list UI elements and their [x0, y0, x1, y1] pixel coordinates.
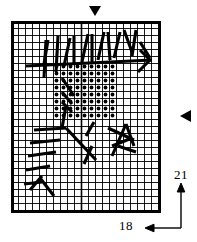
height-dimension-label: 21	[174, 168, 188, 181]
figure-container: 21 18	[0, 0, 197, 242]
figure-background	[0, 0, 197, 242]
width-dimension-label: 18	[119, 219, 133, 232]
grid-character-figure	[0, 0, 197, 242]
